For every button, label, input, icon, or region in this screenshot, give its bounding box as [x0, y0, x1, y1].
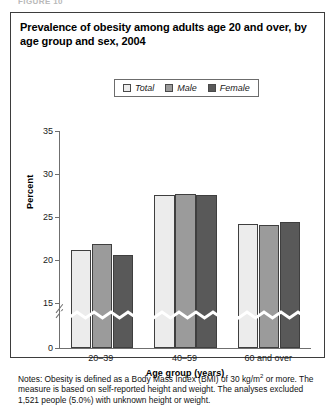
x-axis-line	[59, 348, 311, 349]
figure-notes: Notes: Obesity is defined as a Body Mass…	[18, 371, 324, 406]
notes-prefix: Notes: Obesity is defined as a Body Mass…	[18, 374, 260, 384]
bar-total-0[interactable]	[71, 250, 92, 348]
y-tick-label: 0	[48, 343, 53, 353]
chart-legend: TotalMaleFemale	[114, 79, 259, 97]
legend-item-male[interactable]: Male	[165, 83, 197, 93]
bar-group	[71, 117, 134, 348]
legend-item-label: Male	[177, 83, 197, 93]
legend-swatch-icon	[123, 84, 131, 92]
figure-frame: Prevalence of obesity among adults age 2…	[10, 12, 325, 358]
bar-group	[238, 117, 301, 348]
figure-caption: FIGURE 10	[18, 0, 63, 6]
legend-swatch-icon	[208, 84, 216, 92]
y-tick-label: 15	[43, 298, 53, 308]
y-tick-label: 30	[43, 169, 53, 179]
bar-female-2[interactable]	[280, 222, 301, 348]
legend-item-label: Female	[220, 83, 250, 93]
bar-male-2[interactable]	[259, 225, 280, 348]
y-tick-label: 20	[43, 255, 53, 265]
page-title: Prevalence of obesity among adults age 2…	[20, 21, 316, 48]
y-tick-mark	[55, 348, 59, 349]
plot-area: 01520253035	[59, 117, 311, 349]
bar-series-container	[60, 117, 311, 348]
x-tick-label: 40–59	[172, 353, 197, 363]
y-tick-label: 25	[43, 212, 53, 222]
bar-female-1[interactable]	[196, 195, 217, 348]
y-tick-mark	[55, 217, 59, 218]
legend-item-total[interactable]: Total	[123, 83, 154, 93]
bar-male-1[interactable]	[175, 194, 196, 348]
x-tick-label: 60 and over	[244, 353, 292, 363]
bar-total-2[interactable]	[238, 224, 259, 348]
legend-item-female[interactable]: Female	[208, 83, 250, 93]
bar-female-0[interactable]	[113, 255, 134, 348]
x-tick-label: 20–39	[88, 353, 113, 363]
legend-item-label: Total	[135, 83, 154, 93]
bar-male-0[interactable]	[92, 244, 113, 348]
y-axis-label: Percent	[25, 175, 35, 209]
y-tick-mark	[55, 260, 59, 261]
y-tick-label: 35	[43, 126, 53, 136]
y-tick-mark	[55, 174, 59, 175]
bar-total-1[interactable]	[154, 195, 175, 349]
legend-swatch-icon	[165, 84, 173, 92]
bar-group	[154, 117, 217, 348]
x-axis-tick-labels: 20–3940–5960 and over	[59, 353, 311, 365]
y-tick-mark	[55, 131, 59, 132]
